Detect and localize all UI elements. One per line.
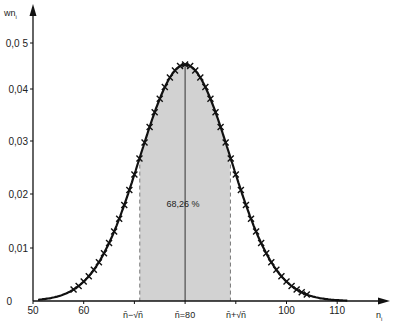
x-marker-icon bbox=[91, 267, 97, 273]
y-tick-label: 0,04 bbox=[9, 84, 29, 95]
mean-label: n̄=80 bbox=[175, 310, 195, 320]
right-bound-label: n̄+√n̄ bbox=[226, 310, 246, 320]
x-axis-title: ni bbox=[376, 310, 382, 322]
x-marker-icon bbox=[268, 259, 274, 265]
y-tick-label: 0,02 bbox=[9, 189, 29, 200]
shaded-region bbox=[140, 65, 231, 301]
x-marker-icon bbox=[278, 273, 284, 279]
x-tick-label: 100 bbox=[278, 305, 295, 316]
normal-distribution-chart: 00,010,020,030,040,0 55060100110 68,26 %… bbox=[0, 0, 397, 326]
x-tick-label: 110 bbox=[329, 305, 345, 316]
y-axis-arrow-icon bbox=[30, 4, 37, 16]
y-tick-label: 0,01 bbox=[9, 243, 29, 254]
left-bound-label: n̄−√n̄ bbox=[123, 310, 143, 320]
x-marker-icon bbox=[81, 279, 87, 285]
x-tick-label: 60 bbox=[78, 305, 90, 316]
y-tick-label: 0,03 bbox=[9, 136, 29, 147]
y-axis-title: wni bbox=[3, 8, 17, 20]
percent-label: 68,26 % bbox=[166, 199, 199, 209]
x-marker-icon bbox=[289, 283, 295, 289]
x-marker-icon bbox=[86, 273, 92, 279]
x-marker-icon bbox=[96, 259, 102, 265]
y-tick-label: 0,0 5 bbox=[6, 38, 29, 49]
x-axis-arrow-icon bbox=[378, 298, 390, 305]
y-tick-label: 0 bbox=[6, 296, 12, 307]
x-tick-label: 50 bbox=[27, 305, 39, 316]
x-marker-icon bbox=[273, 267, 279, 273]
